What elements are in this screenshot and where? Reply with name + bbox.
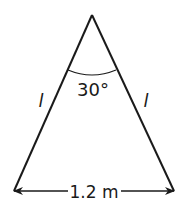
apex-angle-arc	[68, 70, 116, 75]
left-side-label: l	[38, 90, 43, 111]
base-length-label: 1.2 m	[70, 182, 119, 202]
triangle-diagram: 30° l l 1.2 m	[0, 0, 187, 202]
right-side-label: l	[143, 90, 148, 111]
apex-angle-label: 30°	[77, 79, 109, 100]
left-side	[14, 15, 92, 191]
right-side	[92, 15, 174, 191]
